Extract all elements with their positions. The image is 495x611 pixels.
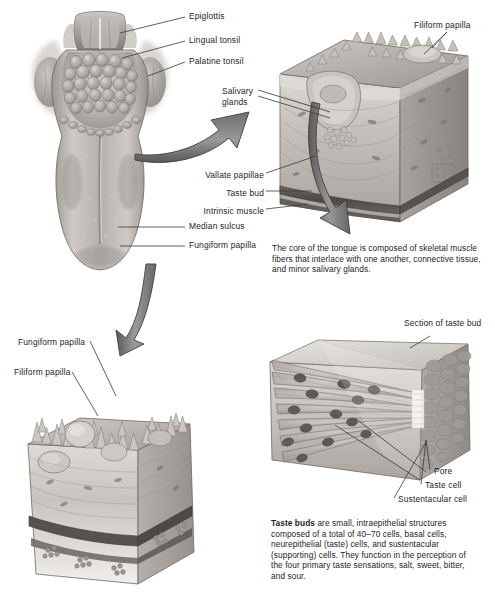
taste-bud-caption-lead: Taste buds <box>271 518 315 528</box>
papillae-block-leaders <box>0 320 260 450</box>
clipped-bottom-caption <box>60 602 360 611</box>
taste-bud-caption: Taste buds are small, intraepithelial st… <box>271 518 477 582</box>
anatomical-plate: Epiglottis Lingual tonsil Palatine tonsi… <box>0 0 495 611</box>
taste-bud-leaders <box>260 320 495 510</box>
tongue-section-caption: The core of the tongue is composed of sk… <box>272 243 482 275</box>
